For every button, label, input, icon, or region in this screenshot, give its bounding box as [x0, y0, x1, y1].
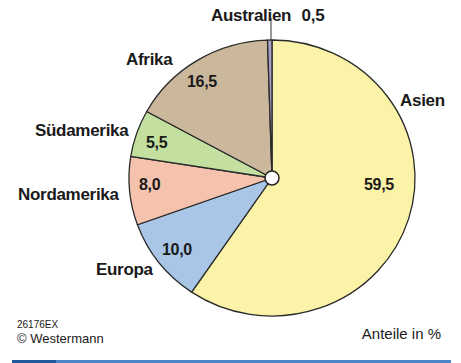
- value-nordamerika: 8,0: [139, 176, 160, 194]
- label-australien: Australien 0,5: [211, 6, 324, 26]
- label-europa: Europa: [96, 260, 153, 280]
- label-afrika: Afrika: [126, 50, 172, 70]
- value-afrika: 16,5: [187, 73, 217, 91]
- center-marker: [265, 171, 279, 185]
- copyright: © Westermann: [17, 331, 104, 346]
- value-australien: 0,5: [302, 6, 325, 25]
- figure-code: 26176EX: [17, 319, 58, 330]
- label-suedamerika: Südamerika: [35, 121, 128, 141]
- label-nordamerika: Nordamerika: [18, 185, 119, 205]
- value-europa: 10,0: [162, 241, 192, 259]
- label-australien-name: Australien: [211, 6, 291, 25]
- value-suedamerika: 5,5: [146, 134, 167, 152]
- unit-label: Anteile in %: [362, 325, 441, 342]
- label-asien: Asien: [400, 91, 445, 111]
- value-asien: 59,5: [364, 176, 394, 194]
